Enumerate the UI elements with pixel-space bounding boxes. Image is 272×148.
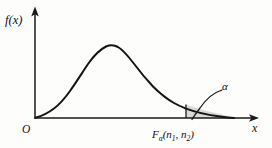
y-axis-label: f(x) <box>5 13 22 27</box>
crit-close-paren: ) <box>189 128 194 141</box>
critical-value-label: Fα(n1, n2) <box>151 128 194 143</box>
figure-canvas: f(x) O x α Fα(n1, n2) <box>0 0 272 148</box>
density-curve <box>36 45 234 118</box>
alpha-label: α <box>222 80 228 92</box>
x-axis-label: x <box>251 121 258 135</box>
f-distribution-figure: f(x) O x α Fα(n1, n2) <box>0 0 272 148</box>
origin-label: O <box>22 123 31 135</box>
